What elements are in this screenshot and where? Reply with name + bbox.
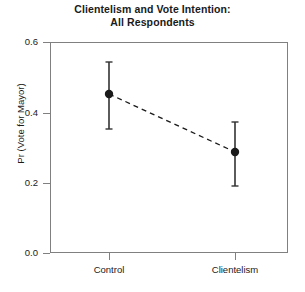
y-axis-tick-labels: 0.0 0.2 0.4 0.6 — [14, 0, 38, 292]
x-tick-mark-control — [109, 253, 110, 260]
data-point-clientelism — [231, 148, 239, 156]
chart-title: Clientelism and Vote Intention: All Resp… — [0, 3, 305, 29]
y-tick-label-0: 0.0 — [14, 248, 38, 258]
y-tick-label-2: 0.4 — [14, 108, 38, 118]
chart-title-line-1: Clientelism and Vote Intention: — [0, 3, 305, 16]
plot-area — [50, 42, 288, 253]
x-tick-mark-clientelism — [235, 253, 236, 260]
plot-canvas — [50, 42, 288, 253]
y-tick-mark-1 — [43, 183, 50, 184]
x-tick-label-clientelism: Clientelism — [212, 264, 258, 275]
data-point-control — [105, 90, 113, 98]
y-tick-label-1: 0.2 — [14, 178, 38, 188]
chart-screenshot: Clientelism and Vote Intention: All Resp… — [0, 0, 305, 292]
chart-title-line-2: All Respondents — [0, 16, 305, 29]
y-tick-mark-2 — [43, 113, 50, 114]
x-tick-label-control: Control — [94, 264, 125, 275]
connector-dashed-line — [109, 94, 235, 152]
y-tick-label-3: 0.6 — [14, 37, 38, 47]
y-tick-mark-3 — [43, 42, 50, 43]
y-tick-mark-0 — [43, 253, 50, 254]
